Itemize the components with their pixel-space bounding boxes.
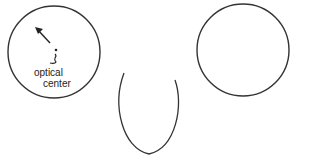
label-center: center xyxy=(43,78,71,89)
arrow-icon xyxy=(35,27,50,43)
optical-center-dot xyxy=(55,49,58,52)
squiggle-icon xyxy=(50,54,56,63)
u-shape xyxy=(119,73,179,154)
right-circle xyxy=(197,4,289,96)
label-optical: optical xyxy=(34,67,63,78)
